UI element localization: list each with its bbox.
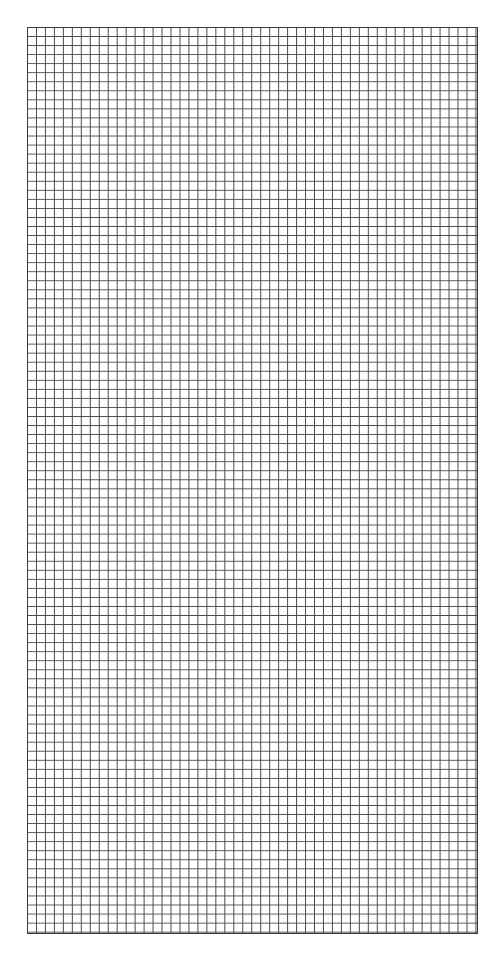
grid-paper-sheet [27,27,478,934]
